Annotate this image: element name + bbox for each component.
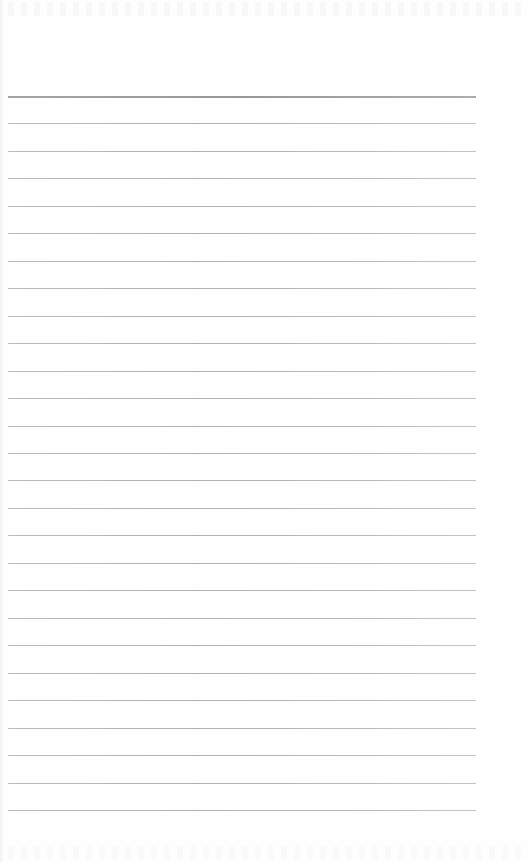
ruled-line (8, 151, 476, 152)
ruled-line (8, 233, 476, 234)
bleed-through-top (8, 2, 524, 16)
ruled-line (8, 178, 476, 179)
ruled-line (8, 206, 476, 207)
ruled-line (8, 398, 476, 399)
lined-paper-page (0, 0, 532, 862)
ruled-line (8, 426, 476, 427)
ruled-line (8, 123, 476, 124)
ruled-line (8, 700, 476, 701)
ruled-line (8, 316, 476, 317)
ruled-line (8, 261, 476, 262)
ruled-line (8, 96, 476, 98)
ruled-line (8, 343, 476, 344)
ruled-line (8, 563, 476, 564)
ruled-line (8, 810, 476, 811)
ruled-line (8, 288, 476, 289)
ruled-line (8, 453, 476, 454)
ruled-line (8, 673, 476, 674)
ruled-line (8, 755, 476, 756)
ruled-line (8, 508, 476, 509)
ruled-line (8, 590, 476, 591)
ruled-line (8, 728, 476, 729)
ruled-line (8, 480, 476, 481)
bleed-through-bottom (8, 846, 524, 860)
ruled-line (8, 645, 476, 646)
ruled-line (8, 535, 476, 536)
ruled-line (8, 618, 476, 619)
ruled-line (8, 371, 476, 372)
page-edge-shadow (0, 0, 4, 862)
ruled-line (8, 783, 476, 784)
